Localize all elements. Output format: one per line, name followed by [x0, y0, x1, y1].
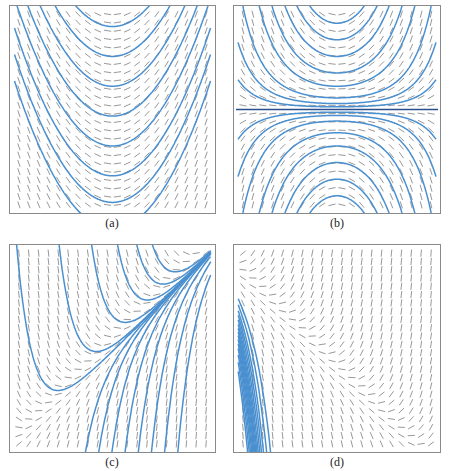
panel-label-a: (a)	[82, 216, 142, 231]
panel-label-d: (d)	[307, 455, 367, 470]
slope-field-plot	[234, 6, 440, 213]
solution-curves	[14, 245, 211, 452]
slope-field-plot	[10, 245, 215, 452]
solution-curves	[238, 299, 274, 452]
slope-field-d	[233, 244, 441, 453]
slope-field-b	[233, 5, 441, 214]
slope-field-plot	[234, 245, 440, 452]
slope-segments	[15, 250, 209, 448]
slope-field-c	[9, 244, 216, 453]
panel-label-b: (b)	[307, 216, 367, 231]
slope-segments	[239, 250, 434, 448]
solution-curves	[15, 6, 211, 213]
slope-field-a	[9, 5, 216, 214]
panel-label-c: (c)	[82, 455, 142, 470]
slope-field-plot	[10, 6, 215, 213]
